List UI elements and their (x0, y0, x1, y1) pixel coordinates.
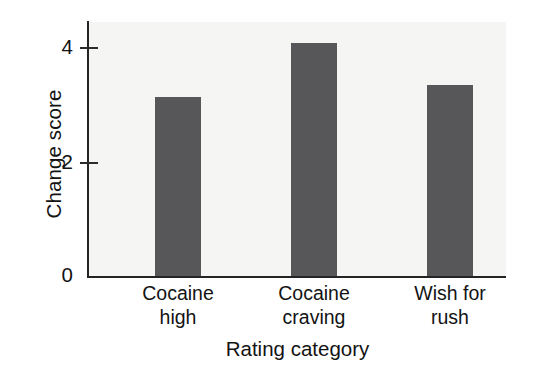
x-tick-line-1: Cocaine (108, 282, 248, 306)
bar-cocaine-high[interactable] (155, 97, 201, 276)
y-axis-line (87, 21, 89, 278)
y-tick-label-2: 2 (47, 150, 73, 174)
x-axis-title: Rating category (89, 337, 506, 361)
x-tick-label-cocaine-high: Cocaine high (108, 282, 248, 329)
y-tick-mark-2 (80, 162, 98, 164)
x-tick-line-2: craving (244, 306, 384, 330)
bar-chart-figure: Change score 4 2 0 Cocaine high Cocaine … (0, 0, 539, 376)
x-tick-line-1: Cocaine (244, 282, 384, 306)
bar-cocaine-craving[interactable] (291, 43, 337, 276)
y-tick-mark-4 (80, 47, 98, 49)
x-tick-line-2: high (108, 306, 248, 330)
y-tick-label-4: 4 (47, 35, 73, 59)
x-tick-line-2: rush (380, 306, 520, 330)
x-tick-label-wish-for-rush: Wish for rush (380, 282, 520, 329)
y-tick-label-0: 0 (47, 263, 73, 287)
x-tick-label-cocaine-craving: Cocaine craving (244, 282, 384, 329)
bar-wish-for-rush[interactable] (427, 85, 473, 276)
x-tick-line-1: Wish for (380, 282, 520, 306)
